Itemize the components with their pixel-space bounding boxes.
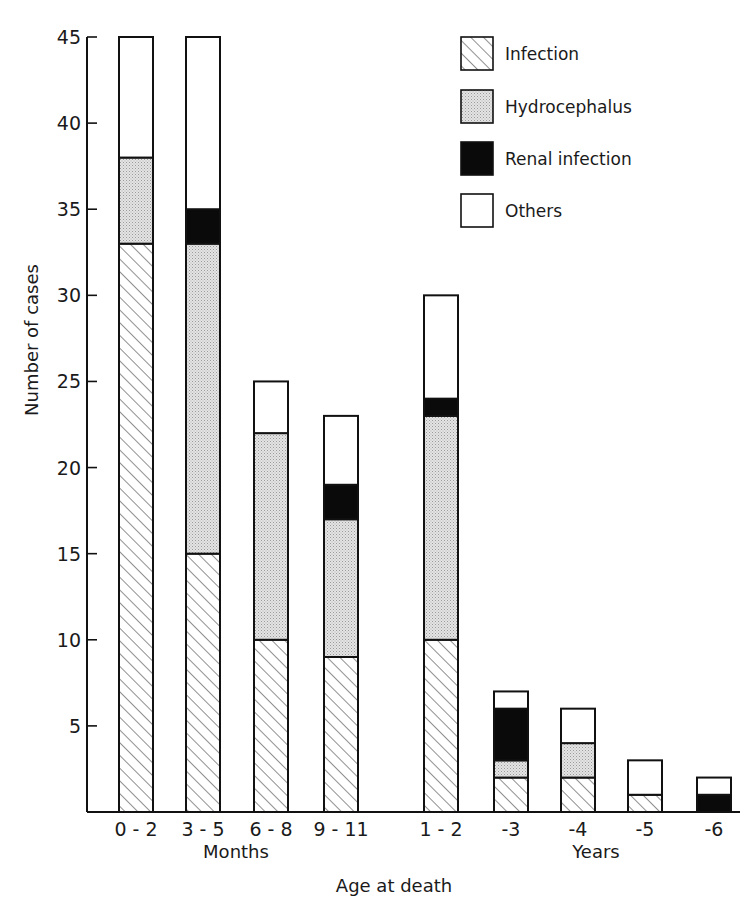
x-tick-label: 1 - 2 bbox=[419, 818, 462, 840]
bar-segment-infection bbox=[561, 778, 595, 812]
bar-segment-infection bbox=[186, 554, 220, 812]
bar-segment-hydrocephalus bbox=[424, 416, 458, 640]
bar-6-8 bbox=[254, 381, 288, 812]
y-axis-title: Number of cases bbox=[21, 264, 42, 416]
bar-1-2 bbox=[424, 295, 458, 812]
bar-3-5 bbox=[186, 37, 220, 812]
bar-segment-others bbox=[186, 37, 220, 209]
bar-segment-infection bbox=[324, 657, 358, 812]
x-axis: 0 - 23 - 56 - 89 - 111 - 2-3-4-5-6Months… bbox=[87, 812, 740, 862]
bar-segment-others bbox=[254, 381, 288, 433]
bar-segment-hydrocephalus bbox=[561, 743, 595, 777]
legend-label: Others bbox=[505, 201, 562, 221]
bar-segment-renal-infection bbox=[324, 485, 358, 519]
legend-label: Infection bbox=[505, 44, 579, 64]
bar-segment-infection bbox=[494, 778, 528, 812]
bar-9-11 bbox=[324, 416, 358, 812]
bar-segment-others bbox=[697, 778, 731, 795]
x-tick-label: -4 bbox=[569, 818, 588, 840]
bars bbox=[119, 37, 731, 812]
y-tick-label: 20 bbox=[57, 457, 81, 479]
bar-segment-infection bbox=[119, 244, 153, 812]
bar--5 bbox=[628, 760, 662, 812]
legend-item-others: Others bbox=[461, 194, 562, 227]
y-tick: 10 bbox=[57, 629, 97, 651]
x-group-label-months: Months bbox=[203, 841, 269, 862]
y-tick: 45 bbox=[57, 26, 97, 48]
legend-item-infection: Infection bbox=[461, 37, 579, 70]
y-tick-label: 5 bbox=[69, 715, 81, 737]
bar-segment-others bbox=[561, 709, 595, 743]
bar-segment-hydrocephalus bbox=[254, 433, 288, 640]
y-tick: 20 bbox=[57, 457, 97, 479]
legend-swatch bbox=[461, 194, 493, 227]
x-tick-label: 9 - 11 bbox=[313, 818, 368, 840]
legend-item-renal-infection: Renal infection bbox=[461, 142, 632, 175]
x-group-label-years: Years bbox=[571, 841, 620, 862]
bar-segment-others bbox=[119, 37, 153, 158]
y-axis: 51015202530354045 bbox=[57, 26, 97, 812]
y-tick-label: 45 bbox=[57, 26, 81, 48]
y-tick: 35 bbox=[57, 198, 97, 220]
bar-segment-infection bbox=[628, 795, 662, 812]
bar-segment-others bbox=[494, 691, 528, 708]
y-tick-label: 10 bbox=[57, 629, 81, 651]
x-tick-label: 0 - 2 bbox=[114, 818, 157, 840]
y-tick: 15 bbox=[57, 543, 97, 565]
bar-segment-hydrocephalus bbox=[186, 244, 220, 554]
legend-swatch bbox=[461, 37, 493, 70]
bar-segment-renal-infection bbox=[494, 709, 528, 761]
legend-swatch bbox=[461, 142, 493, 175]
bar-segment-others bbox=[628, 760, 662, 794]
bar-segment-infection bbox=[254, 640, 288, 812]
x-tick-label: -6 bbox=[705, 818, 724, 840]
legend-swatch bbox=[461, 90, 493, 123]
bar--6 bbox=[697, 778, 731, 812]
y-tick-label: 40 bbox=[57, 112, 81, 134]
legend-label: Hydrocephalus bbox=[505, 97, 632, 117]
bar-segment-hydrocephalus bbox=[494, 760, 528, 777]
y-tick-label: 15 bbox=[57, 543, 81, 565]
bar-segment-others bbox=[424, 295, 458, 398]
bar-segment-renal-infection bbox=[697, 795, 731, 812]
stacked-bar-chart: 51015202530354045 0 - 23 - 56 - 89 - 111… bbox=[0, 0, 753, 912]
y-tick: 30 bbox=[57, 284, 97, 306]
legend: InfectionHydrocephalusRenal infectionOth… bbox=[461, 37, 632, 227]
y-tick-label: 25 bbox=[57, 370, 81, 392]
y-tick: 5 bbox=[69, 715, 97, 737]
y-tick: 25 bbox=[57, 370, 97, 392]
x-tick-label: 3 - 5 bbox=[181, 818, 224, 840]
legend-item-hydrocephalus: Hydrocephalus bbox=[461, 90, 632, 123]
x-tick-label: -3 bbox=[502, 818, 521, 840]
bar-segment-renal-infection bbox=[186, 209, 220, 243]
bar-segment-others bbox=[324, 416, 358, 485]
x-axis-title: Age at death bbox=[336, 875, 452, 896]
y-tick-label: 30 bbox=[57, 284, 81, 306]
y-tick: 40 bbox=[57, 112, 97, 134]
bar-segment-hydrocephalus bbox=[119, 158, 153, 244]
x-tick-label: 6 - 8 bbox=[249, 818, 292, 840]
bar--4 bbox=[561, 709, 595, 812]
bar-segment-renal-infection bbox=[424, 399, 458, 416]
bar--3 bbox=[494, 691, 528, 812]
bar-segment-hydrocephalus bbox=[324, 519, 358, 657]
bar-segment-infection bbox=[424, 640, 458, 812]
bar-0-2 bbox=[119, 37, 153, 812]
y-tick-label: 35 bbox=[57, 198, 81, 220]
x-tick-label: -5 bbox=[636, 818, 655, 840]
legend-label: Renal infection bbox=[505, 149, 632, 169]
